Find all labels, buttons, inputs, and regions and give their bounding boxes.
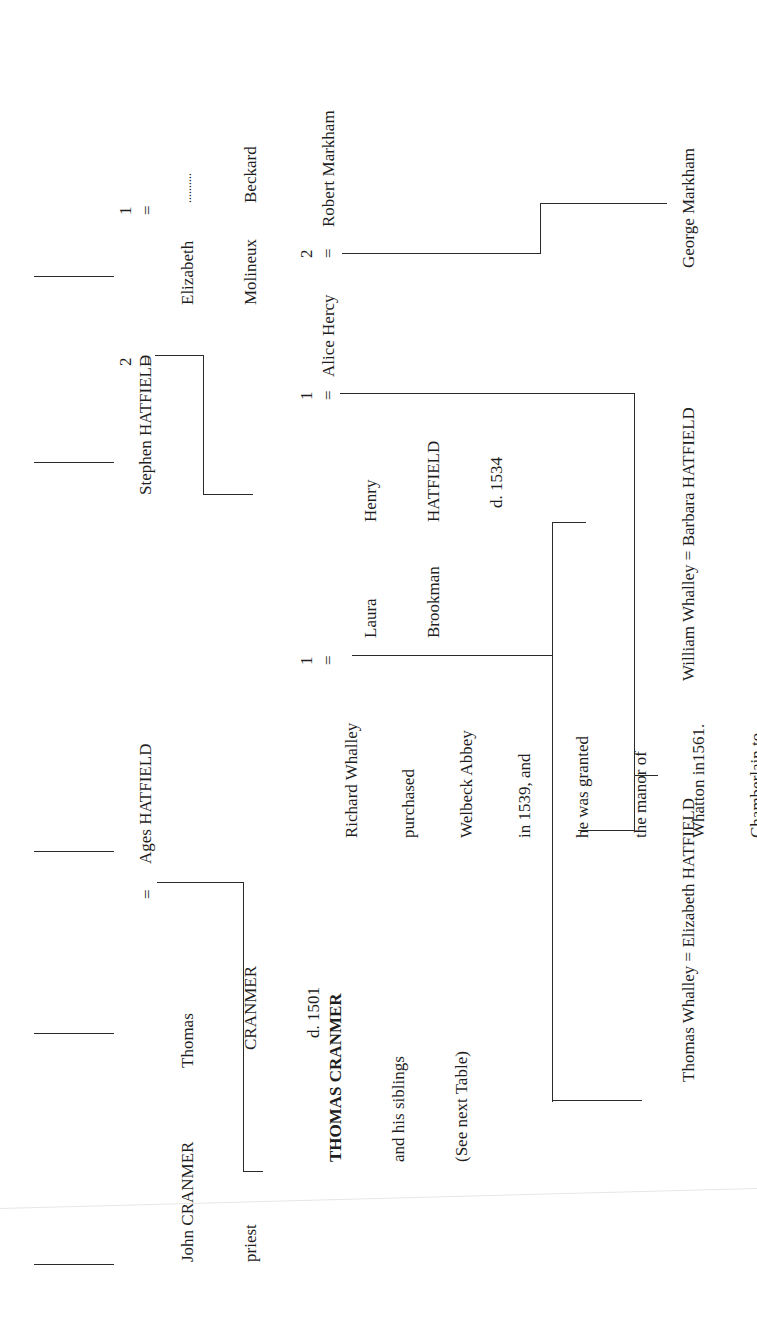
henry-line2: HATFIELD [423,441,444,522]
richard-line: he was granted [573,715,592,838]
see-next-table-reference: (See next Table) [451,993,472,1162]
descent-line-to-william-whalley [552,522,586,523]
person-thomas-whalley: Thomas Whalley = Elizabeth HATFIELD [678,798,699,1082]
marriage-sign-elizabeth-beckard: = [137,205,158,215]
person-stephen-hatfield: Stephen HATFIELD [135,355,156,495]
elizabeth-line1: Elizabeth [177,239,198,305]
marriage-order-henry: 1 [296,392,317,401]
marriage-order-alice: 2 [296,250,317,259]
marriage-sign-alice-robert: = [318,248,339,258]
richard-line: Chamberlain to [747,715,757,838]
person-beckard: .......... Beckard [135,146,282,203]
person-elizabeth-molineux: Elizabeth Molineux [135,239,282,305]
descent-line-alice-robert-vertical [540,203,541,254]
descent-line-to-elizabeth-hatfield [578,830,635,831]
descent-line-stephen-vertical [203,355,204,495]
descent-line-thomas-ages [157,882,243,883]
descent-line-to-barbara-hatfield [634,775,658,776]
descent-line-henry-alice [340,393,635,394]
henry-line3: d. 1534 [486,441,507,522]
ancestry-stub-thomas [34,1033,114,1034]
person-william-whalley: William Whalley = Barbara HATFIELD [678,407,699,681]
laura-line2: Brookman [423,566,444,638]
beckard-name: Beckard [240,146,261,203]
elizabeth-line2: Molineux [240,239,261,305]
ancestry-stub-ages [34,851,114,852]
thomas-cranmer-heading: THOMAS CRANMER [325,993,346,1162]
beckard-dots: .......... [177,146,198,203]
marriage-sign-thomas-ages: = [137,889,158,899]
richard-line: purchased [399,715,418,838]
ancestry-stub-stephen [34,462,114,463]
person-ages-hatfield: Ages HATFIELD [135,744,156,864]
descent-line-richard-laura [352,655,552,656]
descent-line-alice-robert [342,253,541,254]
marriage-order-elizabeth: 1 [115,207,136,216]
ancestry-stub-john [34,1264,114,1265]
john-cranmer-name: John CRANMER [177,1142,198,1262]
marriage-order-stephen: 2 [115,358,136,367]
person-robert-markham: Robert Markham [318,110,339,227]
person-george-markham: George Markham [678,148,699,268]
ancestry-stub-elizabeth [34,276,114,277]
thomas-sr-line1: Thomas [177,966,198,1068]
henry-line1: Henry [360,441,381,522]
descent-line-to-george-markham [540,203,667,204]
descent-line-stephen [155,355,203,356]
descent-line-henry-alice-vertical [634,393,635,831]
person-henry-hatfield: Henry HATFIELD d. 1534 [318,441,528,522]
descent-line-to-thomas-whalley [552,1100,642,1101]
marriage-sign-stephen-elizabeth: = [137,356,158,366]
richard-line: in 1539, and [515,715,534,838]
richard-line: Welbeck Abbey [457,715,476,838]
person-thomas-cranmer: THOMAS CRANMER and his siblings (See nex… [283,993,493,1162]
richard-line: Richard Whalley [342,715,361,838]
descent-line-richard-laura-vertical [552,522,553,1102]
thomas-cranmer-siblings: and his siblings [388,993,409,1162]
person-alice-hercy: Alice Hercy [318,294,339,377]
marriage-sign-henry-alice: = [318,390,339,400]
page-crease [0,1188,757,1209]
descent-line-stephen-end [203,494,253,495]
person-laura-brookman: Laura Brookman [318,566,465,638]
descent-line-thomas-ages-end [243,1171,263,1172]
marriage-order-richard: 1 [296,657,317,666]
laura-line1: Laura [360,566,381,638]
descent-line-thomas-ages-vertical [243,882,244,1172]
marriage-sign-richard-laura: = [318,655,339,665]
